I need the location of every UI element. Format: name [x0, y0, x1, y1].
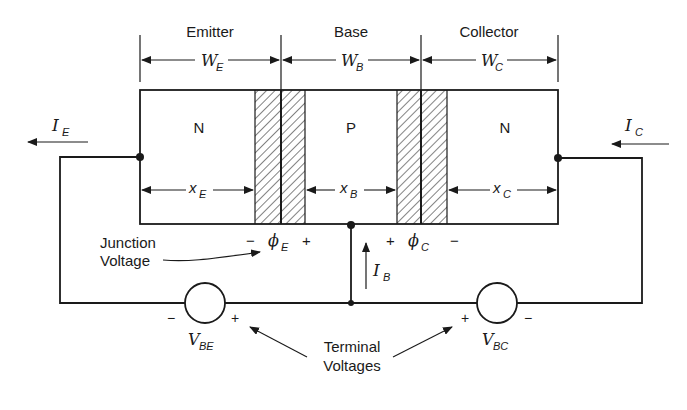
svg-text:E: E — [216, 61, 224, 73]
phi-e-label: − ϕ E + — [246, 231, 311, 253]
bjt-diagram: Emitter Base Collector W E W B W C N P N — [0, 0, 687, 410]
phi-c-label: + ϕ C − — [386, 231, 459, 253]
svg-text:C: C — [635, 126, 643, 138]
base-node — [348, 300, 354, 306]
svg-text:−: − — [524, 310, 532, 326]
svg-text:BC: BC — [493, 340, 508, 352]
svg-text:x: x — [188, 179, 197, 196]
base-terminal — [347, 221, 355, 229]
collector-current-label: I C — [624, 115, 643, 138]
emitter-current-label: I E — [51, 115, 70, 138]
svg-text:+: + — [461, 310, 469, 326]
svg-text:−: − — [167, 310, 175, 326]
terminal-voltages-label-line1: Terminal — [324, 338, 381, 355]
svg-text:C: C — [503, 188, 511, 200]
circuit-wires — [60, 157, 642, 303]
width-label-wc: W C — [481, 51, 503, 73]
svg-text:C: C — [421, 241, 429, 253]
vbe-source — [185, 283, 225, 323]
collector-terminal — [554, 154, 562, 162]
width-label-we: W E — [201, 51, 224, 73]
collector-title: Collector — [459, 23, 518, 40]
svg-text:−: − — [246, 232, 255, 249]
svg-text:E: E — [281, 241, 289, 253]
junction-voltage-label-line2: Voltage — [100, 252, 150, 269]
terminal-voltages-label-line2: Voltages — [323, 357, 381, 374]
emitter-title: Emitter — [186, 23, 234, 40]
svg-text:+: + — [302, 232, 311, 249]
neutral-label-xe: x E — [188, 179, 207, 200]
svg-text:B: B — [356, 61, 363, 73]
junction-voltage-pointer-arrow — [163, 252, 260, 261]
svg-text:x: x — [492, 179, 501, 196]
base-current-label: I B — [372, 260, 390, 283]
svg-text:E: E — [62, 126, 70, 138]
svg-text:BE: BE — [199, 340, 214, 352]
svg-text:ϕ: ϕ — [408, 231, 419, 250]
svg-text:E: E — [199, 188, 207, 200]
svg-text:C: C — [495, 61, 503, 73]
svg-text:−: − — [450, 232, 459, 249]
emitter-terminal — [136, 153, 144, 161]
base-doping-label: P — [346, 119, 356, 136]
svg-text:I: I — [51, 115, 59, 135]
svg-text:x: x — [339, 179, 348, 196]
svg-text:I: I — [624, 115, 632, 135]
width-label-wb: W B — [341, 51, 363, 73]
emitter-doping-label: N — [194, 119, 205, 136]
transistor-body — [140, 90, 558, 224]
svg-text:+: + — [386, 232, 395, 249]
neutral-label-xc: x C — [492, 179, 511, 200]
neutral-label-xb: x B — [339, 179, 357, 200]
svg-text:ϕ: ϕ — [268, 231, 279, 250]
vbc-source — [477, 283, 517, 323]
collector-doping-label: N — [500, 119, 511, 136]
svg-text:+: + — [231, 310, 239, 326]
junction-voltage-label-line1: Junction — [100, 234, 156, 251]
base-title: Base — [334, 23, 368, 40]
svg-text:I: I — [372, 260, 380, 280]
svg-text:B: B — [350, 188, 357, 200]
svg-text:B: B — [383, 271, 390, 283]
